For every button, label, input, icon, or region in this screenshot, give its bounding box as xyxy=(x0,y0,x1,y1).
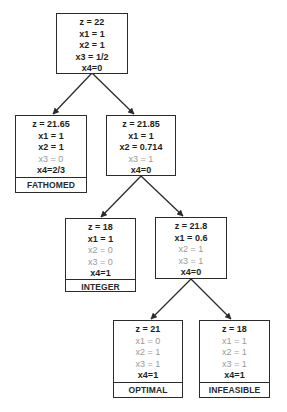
node-value: x2 = 0 xyxy=(66,245,135,257)
node-value: x4=0 xyxy=(57,63,127,75)
node-value: z = 21.65 xyxy=(16,119,86,131)
node-integer: z = 18 x1 = 1 x2 = 0 x3 = 0 x4=1 INTEGER xyxy=(65,218,136,292)
node-value: x1 = 1 xyxy=(200,336,269,348)
node-value: x2 = 0.714 xyxy=(107,142,175,154)
node-value: x2 = 1 xyxy=(156,244,226,256)
node-value: x1 = 1 xyxy=(16,131,86,143)
node-value: x2 = 1 xyxy=(114,347,182,359)
node-value: x3 = 1 xyxy=(114,359,182,371)
node-value: x2 = 1 xyxy=(200,347,269,359)
node-right: z = 21.85 x1 = 1 x2 = 0.714 x3 = 1 x4=0 xyxy=(106,115,176,176)
node-value: x3 = 1 xyxy=(156,256,226,268)
node-value: z = 21 xyxy=(114,324,182,336)
node-value: z = 21.8 xyxy=(156,221,226,233)
node-value: x1 = 1 xyxy=(107,131,175,143)
node-value: x1 = 0 xyxy=(114,336,182,348)
node-value: x3 = 1 xyxy=(200,359,269,371)
node-optimal: z = 21 x1 = 0 x2 = 1 x3 = 1 x4=1 OPTIMAL xyxy=(113,320,183,398)
edge-mid-infeasible xyxy=(191,279,231,319)
node-value: x4=0 xyxy=(107,165,175,177)
node-value: z = 18 xyxy=(66,222,135,234)
status-label-optimal: OPTIMAL xyxy=(114,382,182,412)
node-infeasible: z = 18 x1 = 1 x2 = 1 x3 = 1 x4=1 INFEASI… xyxy=(199,320,270,398)
node-value: x3 = 1/2 xyxy=(57,52,127,64)
node-value: x1 = 1 xyxy=(66,234,135,246)
node-value: z = 22 xyxy=(57,17,127,29)
node-value: z = 18 xyxy=(200,324,269,336)
node-mid: z = 21.8 x1 = 0.6 x2 = 1 x3 = 1 x4=0 xyxy=(155,217,227,279)
status-label-infeasible: INFEASIBLE xyxy=(200,382,269,412)
edge-right-mid xyxy=(141,176,183,216)
node-value: x4=0 xyxy=(156,267,226,279)
edge-mid-optimal xyxy=(151,279,191,319)
node-fathomed: z = 21.65 x1 = 1 x2 = 1 x3 = 0 x4=2/3 FA… xyxy=(15,115,87,193)
node-value: x4=1 xyxy=(66,268,135,280)
edge-right-integer xyxy=(101,176,141,217)
node-value: x2 = 1 xyxy=(16,142,86,154)
node-value: x1 = 1 xyxy=(57,29,127,41)
node-value: z = 21.85 xyxy=(107,119,175,131)
node-value: x4=1 xyxy=(200,370,269,382)
node-value: x1 = 0.6 xyxy=(156,233,226,245)
node-value: x3 = 0 xyxy=(66,257,135,269)
node-value: x3 = 1 xyxy=(107,154,175,166)
node-value: x3 = 0 xyxy=(16,154,86,166)
node-value: x4=2/3 xyxy=(16,165,86,177)
node-value: x2 = 1 xyxy=(57,40,127,52)
edge-root-left xyxy=(53,73,92,114)
edge-root-right xyxy=(92,73,134,114)
node-value: x4=1 xyxy=(114,370,182,382)
node-root: z = 22 x1 = 1 x2 = 1 x3 = 1/2 x4=0 xyxy=(56,13,128,74)
